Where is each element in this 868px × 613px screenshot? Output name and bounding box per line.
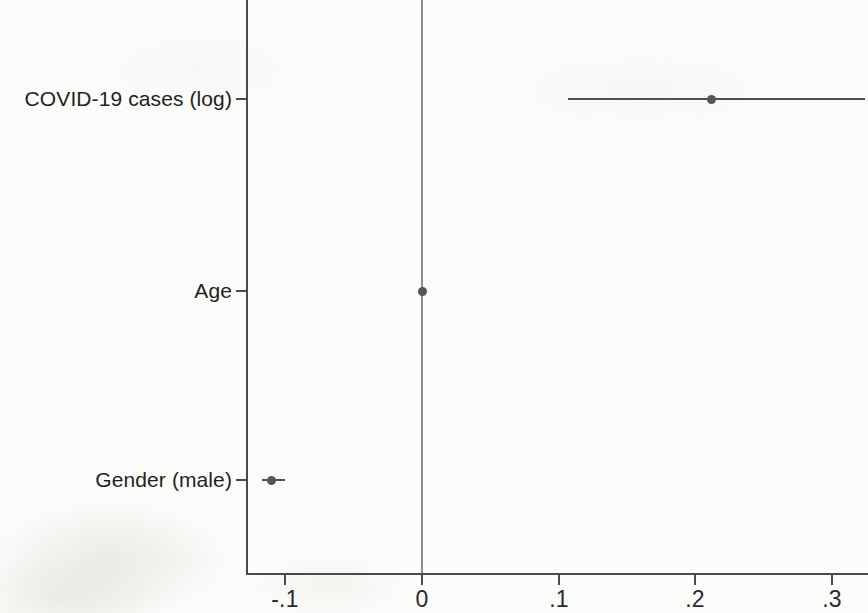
- x-axis-label-0.3: .3: [792, 586, 868, 613]
- y-axis-label-covid: COVID-19 cases (log): [0, 87, 232, 111]
- x-axis-line: [246, 573, 868, 575]
- y-axis-tick-age: [236, 290, 247, 292]
- x-axis-tick-0.2: [694, 574, 696, 585]
- point-estimate-marker: [707, 95, 716, 104]
- point-estimate-marker: [267, 476, 276, 485]
- y-axis-tick-gender: [236, 479, 247, 481]
- x-axis-label--0.1: -.1: [245, 586, 325, 613]
- x-axis-tick-0: [421, 574, 423, 585]
- x-axis-tick--0.1: [284, 574, 286, 585]
- x-axis-label-0.1: .1: [519, 586, 599, 613]
- confidence-interval-bar: [568, 98, 865, 100]
- y-axis-tick-covid: [236, 98, 247, 100]
- x-axis-tick-0.3: [831, 574, 833, 585]
- x-axis-label-0.2: .2: [655, 586, 735, 613]
- y-axis-label-age: Age: [0, 279, 232, 303]
- point-estimate-marker: [418, 287, 427, 296]
- y-axis-line: [246, 0, 248, 575]
- x-axis-tick-0.1: [558, 574, 560, 585]
- y-axis-label-gender: Gender (male): [0, 468, 232, 492]
- x-axis-label-0: 0: [382, 586, 462, 613]
- coefficient-plot: COVID-19 cases (log) Age Gender (male) -…: [0, 0, 868, 613]
